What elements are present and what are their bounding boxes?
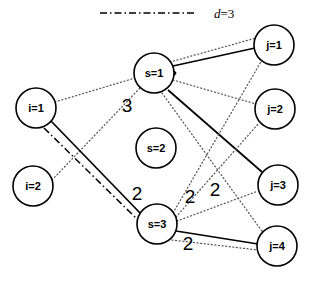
node-s2[interactable]: s=2: [136, 128, 176, 168]
node-j1[interactable]: j=1: [254, 25, 294, 65]
node-s1[interactable]: s=1: [134, 53, 174, 93]
node-s3-label: s=3: [148, 218, 167, 230]
edge-weight-2-mid: 2: [185, 186, 196, 207]
legend-label-d-equals: =: [221, 6, 228, 21]
edge-s1-j3-solid: [168, 90, 262, 172]
node-s1-label: s=1: [145, 67, 164, 79]
node-j3-label: j=3: [269, 179, 286, 191]
node-j4[interactable]: j=4: [257, 226, 297, 266]
graph-svg: i=1 i=2 s=1 s=2 s=3 j=1: [0, 0, 309, 284]
node-i2-label: i=2: [25, 180, 41, 192]
node-i1-label: i=1: [28, 102, 44, 114]
edge-i1-s3-dashdot: [44, 128, 140, 222]
node-j2[interactable]: j=2: [255, 89, 295, 129]
node-i1[interactable]: i=1: [16, 88, 56, 128]
node-j2-label: j=2: [266, 103, 283, 115]
edge-s1-j4: [162, 93, 264, 234]
figure-canvas: i=1 i=2 s=1 s=2 s=3 j=1: [0, 0, 309, 284]
node-layer: i=1 i=2 s=1 s=2 s=3 j=1: [13, 25, 298, 266]
node-i2[interactable]: i=2: [13, 166, 53, 206]
node-j4-label: j=4: [268, 240, 285, 252]
edge-i1-s3-solid: [51, 121, 142, 215]
edge-weight-2-right: 2: [210, 179, 221, 200]
node-j3[interactable]: j=3: [258, 165, 298, 205]
node-s2-label: s=2: [147, 142, 166, 154]
node-j1-label: j=1: [265, 39, 282, 51]
legend-label-d-value: 3: [228, 6, 235, 21]
edge-weight-2-bottom: 2: [183, 233, 194, 254]
node-s3[interactable]: s=3: [137, 204, 177, 244]
edge-s1-j1-solid: [173, 48, 255, 66]
legend-label-d: d=3: [214, 6, 234, 22]
edge-weight-3: 3: [122, 95, 133, 116]
edge-weight-2-left: 2: [132, 183, 143, 204]
